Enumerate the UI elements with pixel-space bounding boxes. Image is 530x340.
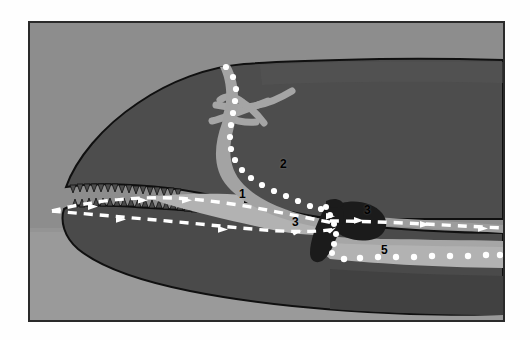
label-3-anterior: 3 <box>292 216 299 228</box>
upper-jaw-interior-shade <box>260 61 503 85</box>
label-2: 2 <box>280 158 287 170</box>
figure-root: 1 2 3 3 5 <box>0 0 530 340</box>
label-1: 1 <box>239 188 246 200</box>
label-5: 5 <box>381 244 388 256</box>
anatomy-illustration <box>30 23 503 320</box>
label-3-posterior: 3 <box>364 204 371 216</box>
ventral-dark-band <box>330 269 503 315</box>
anatomical-plate: 1 2 3 3 5 <box>28 21 505 322</box>
